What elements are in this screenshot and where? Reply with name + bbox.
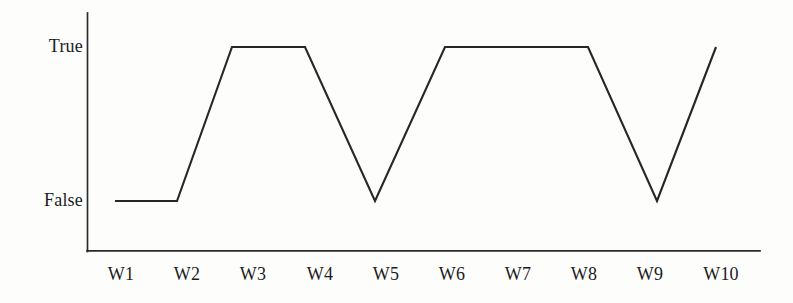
xtick-label-w5: W5 (373, 264, 399, 285)
xtick-label-w3: W3 (240, 264, 266, 285)
chart-figure: True False W1 W2 W3 W4 W5 W6 W7 W8 W9 W1… (0, 0, 793, 303)
xtick-label-w10: W10 (703, 264, 739, 285)
xtick-label-w7: W7 (505, 264, 531, 285)
ytick-label-true: True (0, 36, 83, 57)
xtick-label-w4: W4 (307, 264, 333, 285)
xtick-label-w8: W8 (571, 264, 597, 285)
xtick-label-w2: W2 (174, 264, 200, 285)
data-series-line (115, 47, 716, 201)
xtick-label-w6: W6 (439, 264, 465, 285)
xtick-label-w1: W1 (108, 264, 134, 285)
xtick-label-w9: W9 (637, 264, 663, 285)
chart-canvas (0, 0, 793, 303)
ytick-label-false: False (0, 190, 83, 211)
